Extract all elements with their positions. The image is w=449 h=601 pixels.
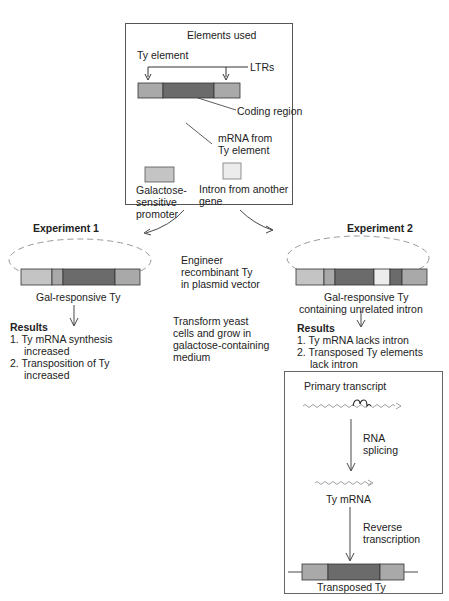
experiment2-title: Experiment 2 xyxy=(347,222,413,234)
intron-label-1: Intron from another xyxy=(199,183,288,195)
experiment1-results-title: Results xyxy=(10,321,48,333)
experiment1-label: Gal-responsive Ty xyxy=(36,291,120,303)
experiment2-label-1: Gal-responsive Ty xyxy=(324,291,408,303)
ty-mrna-label: Ty mRNA xyxy=(326,493,371,505)
mrna-label-1: mRNA from xyxy=(218,132,272,144)
promoter-label-1: Galactose- xyxy=(136,184,187,196)
experiment2-results-title: Results xyxy=(297,322,335,334)
rna-splicing-label-1: RNA xyxy=(363,432,385,444)
reverse-transcription-label-2: transcription xyxy=(363,533,420,545)
transposed-ty-label: Transposed Ty xyxy=(317,581,386,593)
experiment1-result-2b: increased xyxy=(24,369,70,381)
exp1-construct-bar xyxy=(21,269,140,285)
ty-element-label: Ty element xyxy=(137,49,188,61)
exp2-construct-bar xyxy=(296,269,427,285)
experiment2-label-2: containing unrelated intron xyxy=(299,303,423,315)
intron-label-2: gene xyxy=(199,195,222,207)
transform-text-3: galactose-containing xyxy=(173,339,269,351)
promoter-swatch xyxy=(145,167,174,182)
rna-splicing-label-2: splicing xyxy=(363,444,398,456)
coding-region-label: Coding region xyxy=(237,105,302,117)
ltrs-label: LTRs xyxy=(250,61,274,73)
mrna-label-2: Ty element xyxy=(218,144,269,156)
intron-swatch xyxy=(223,163,241,179)
experiment1-result-2a: 2. Transposition of Ty xyxy=(10,357,110,369)
engineer-text-3: in plasmid vector xyxy=(181,278,260,290)
experiment1-title: Experiment 1 xyxy=(33,222,99,234)
experiment1-result-1a: 1. Ty mRNA synthesis xyxy=(10,333,113,345)
promoter-label-2: sensitive xyxy=(136,196,177,208)
experiment2-result-1: 1. Ty mRNA lacks intron xyxy=(297,334,409,346)
primary-transcript-label: Primary transcript xyxy=(304,380,386,392)
experiment2-result-2a: 2. Transposed Ty elements xyxy=(297,346,423,358)
transform-text-4: medium xyxy=(173,351,210,363)
transform-text-1: Transform yeast xyxy=(173,315,248,327)
experiment1-result-1b: increased xyxy=(24,345,70,357)
promoter-label-3: promoter xyxy=(136,208,178,220)
transform-text-2: cells and grow in xyxy=(173,327,251,339)
engineer-text-1: Engineer xyxy=(181,254,223,266)
elements-title: Elements used xyxy=(187,29,256,41)
reverse-transcription-label-1: Reverse xyxy=(363,521,402,533)
engineer-text-2: recombinant Ty xyxy=(181,266,253,278)
transposed-ty-bar xyxy=(302,564,404,580)
ty-element-bar xyxy=(138,83,240,98)
experiment2-result-2b: lack intron xyxy=(310,358,358,370)
